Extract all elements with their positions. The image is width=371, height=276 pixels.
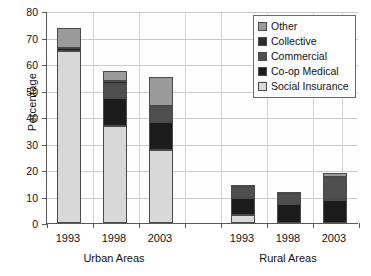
y-tick-mark bbox=[42, 12, 47, 13]
x-tick-mark bbox=[313, 223, 314, 228]
vertical-gridline bbox=[93, 12, 94, 223]
group-label: Urban Areas bbox=[54, 252, 174, 264]
bar-segment bbox=[231, 198, 255, 215]
legend-swatch-icon bbox=[258, 82, 267, 91]
vertical-gridline bbox=[139, 12, 140, 223]
x-tick-label: 1993 bbox=[218, 232, 266, 244]
bar bbox=[277, 193, 301, 223]
y-tick-label: 10 bbox=[8, 193, 38, 203]
x-tick-mark bbox=[47, 223, 48, 228]
legend-swatch-icon bbox=[258, 52, 267, 61]
legend-label: Collective bbox=[271, 36, 317, 47]
bar-segment bbox=[149, 150, 173, 223]
bar-segment bbox=[323, 177, 347, 201]
y-tick-mark bbox=[42, 118, 47, 119]
legend-swatch-icon bbox=[258, 22, 267, 31]
bar-segment bbox=[57, 51, 81, 223]
bar-segment bbox=[277, 194, 301, 205]
bar-segment bbox=[277, 204, 301, 223]
y-tick-mark bbox=[42, 39, 47, 40]
x-tick-label: 1993 bbox=[44, 232, 92, 244]
stacked-bar-chart: Percentage 01020304050607080 19931998200… bbox=[0, 0, 371, 276]
x-tick-mark bbox=[185, 223, 186, 228]
bar-segment bbox=[103, 98, 127, 126]
bar-segment bbox=[103, 84, 127, 98]
bar bbox=[231, 185, 255, 223]
bar-segment bbox=[231, 187, 255, 198]
x-tick-mark bbox=[359, 223, 360, 228]
legend-item: Other bbox=[258, 19, 351, 34]
y-tick-label: 0 bbox=[8, 219, 38, 229]
bar-segment bbox=[231, 185, 255, 187]
y-tick-mark bbox=[42, 65, 47, 66]
bar-segment bbox=[149, 106, 173, 122]
bar-segment bbox=[149, 77, 173, 106]
y-tick-mark bbox=[42, 145, 47, 146]
vertical-gridline bbox=[221, 12, 222, 223]
legend-item: Co-op Medical bbox=[258, 64, 351, 79]
legend-item: Collective bbox=[258, 34, 351, 49]
vertical-gridline bbox=[185, 12, 186, 223]
bar-segment bbox=[103, 71, 127, 81]
y-tick-label: 70 bbox=[8, 34, 38, 44]
bar-segment bbox=[103, 81, 127, 84]
x-tick-label: 1998 bbox=[264, 232, 312, 244]
bar-segment bbox=[57, 48, 81, 51]
bar bbox=[57, 28, 81, 223]
legend-label: Other bbox=[271, 21, 297, 32]
legend: OtherCollectiveCommercialCo-op MedicalSo… bbox=[253, 15, 356, 98]
y-tick-mark bbox=[42, 92, 47, 93]
x-tick-label: 2003 bbox=[310, 232, 358, 244]
y-tick-label: 60 bbox=[8, 60, 38, 70]
bar bbox=[149, 77, 173, 223]
bar-segment bbox=[231, 215, 255, 223]
legend-swatch-icon bbox=[258, 67, 267, 76]
x-tick-mark bbox=[221, 223, 222, 228]
legend-item: Commercial bbox=[258, 49, 351, 64]
x-tick-mark bbox=[93, 223, 94, 228]
bar bbox=[323, 173, 347, 223]
y-tick-label: 30 bbox=[8, 140, 38, 150]
bar-segment bbox=[323, 200, 347, 223]
x-tick-mark bbox=[139, 223, 140, 228]
bar-segment bbox=[57, 28, 81, 48]
y-tick-label: 40 bbox=[8, 113, 38, 123]
group-label: Rural Areas bbox=[228, 252, 348, 264]
x-tick-mark bbox=[267, 223, 268, 228]
y-tick-label: 50 bbox=[8, 87, 38, 97]
bar-segment bbox=[277, 192, 301, 194]
y-tick-mark bbox=[42, 171, 47, 172]
bar-segment bbox=[103, 126, 127, 223]
y-tick-mark bbox=[42, 198, 47, 199]
bar bbox=[103, 71, 127, 223]
legend-label: Co-op Medical bbox=[271, 66, 339, 77]
bar-segment bbox=[323, 173, 347, 177]
legend-swatch-icon bbox=[258, 37, 267, 46]
y-tick-label: 80 bbox=[8, 7, 38, 17]
x-tick-label: 2003 bbox=[136, 232, 184, 244]
legend-item: Social Insurance bbox=[258, 79, 351, 94]
bar-segment bbox=[149, 122, 173, 150]
x-tick-label: 1998 bbox=[90, 232, 138, 244]
y-tick-label: 20 bbox=[8, 166, 38, 176]
legend-label: Social Insurance bbox=[271, 81, 349, 92]
legend-label: Commercial bbox=[271, 51, 327, 62]
